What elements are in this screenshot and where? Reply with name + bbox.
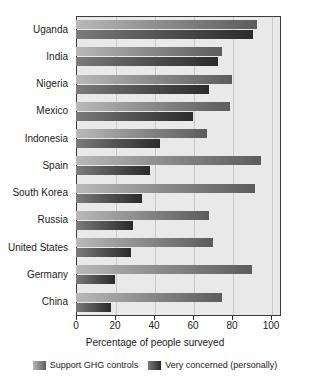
bar-chart: Uganda India Nigeria Mexico Indonesia Sp… — [0, 0, 310, 382]
legend-item-concerned: Very concerned (personally) — [148, 360, 277, 370]
bar-concerned — [76, 30, 253, 39]
bar-support — [76, 156, 261, 165]
y-axis-labels: Uganda India Nigeria Mexico Indonesia Sp… — [0, 16, 72, 316]
bar-support — [76, 184, 255, 193]
y-axis-tick-label: Nigeria — [0, 71, 72, 98]
y-axis-tick-label: Spain — [0, 152, 72, 179]
bar-support — [76, 75, 232, 84]
bar-row — [76, 71, 281, 98]
bar-row — [76, 152, 281, 179]
bar-support — [76, 47, 222, 56]
bar-concerned — [76, 194, 142, 203]
legend-swatch-icon — [148, 361, 161, 370]
bar-concerned — [76, 57, 218, 66]
x-axis-title: Percentage of people surveyed — [0, 337, 310, 348]
x-axis-tick-label: 0 — [73, 321, 79, 331]
y-axis-tick-label: China — [0, 289, 72, 316]
legend-swatch-icon — [33, 361, 46, 370]
y-axis-tick-label: United States — [0, 234, 72, 261]
bar-row — [76, 207, 281, 234]
x-axis-tick-label: 60 — [187, 321, 198, 331]
bar-support — [76, 238, 213, 247]
bar-row — [76, 289, 281, 316]
bar-row — [76, 261, 281, 288]
bar-support — [76, 20, 257, 29]
bar-support — [76, 293, 222, 302]
x-axis-tick-label: 100 — [263, 321, 280, 331]
bar-concerned — [76, 139, 160, 148]
bar-concerned — [76, 221, 133, 230]
chart-legend: Support GHG controls Very concerned (per… — [0, 360, 310, 370]
bar-support — [76, 129, 207, 138]
y-axis-tick-label: Russia — [0, 207, 72, 234]
bar-row — [76, 234, 281, 261]
y-axis-tick-label: Germany — [0, 261, 72, 288]
bar-row — [76, 98, 281, 125]
bar-concerned — [76, 248, 131, 257]
bar-concerned — [76, 303, 111, 312]
legend-item-support: Support GHG controls — [33, 360, 139, 370]
bar-concerned — [76, 275, 115, 284]
x-axis-tick-label: 20 — [109, 321, 120, 331]
bar-support — [76, 102, 230, 111]
x-axis: 0 20 40 60 80 100 — [76, 316, 281, 338]
bar-row — [76, 16, 281, 43]
bar-row — [76, 180, 281, 207]
bar-group-container — [76, 16, 281, 316]
y-axis-tick-label: Uganda — [0, 16, 72, 43]
bar-support — [76, 211, 209, 220]
legend-label: Very concerned (personally) — [165, 360, 277, 370]
bar-concerned — [76, 85, 209, 94]
y-axis-tick-label: India — [0, 43, 72, 70]
y-axis-tick-label: Mexico — [0, 98, 72, 125]
bar-concerned — [76, 112, 193, 121]
bar-row — [76, 43, 281, 70]
legend-label: Support GHG controls — [50, 360, 139, 370]
x-axis-tick-label: 80 — [226, 321, 237, 331]
y-axis-tick-label: South Korea — [0, 180, 72, 207]
x-axis-tick-label: 40 — [148, 321, 159, 331]
bar-support — [76, 265, 252, 274]
bar-concerned — [76, 166, 150, 175]
y-axis-tick-label: Indonesia — [0, 125, 72, 152]
bar-row — [76, 125, 281, 152]
